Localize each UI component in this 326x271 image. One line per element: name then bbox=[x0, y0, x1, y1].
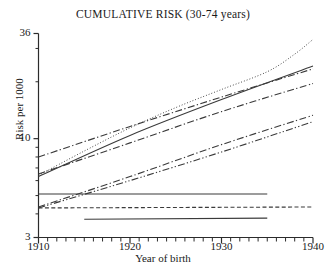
series-line-dashdot-lower bbox=[39, 115, 314, 207]
y-tick-label: 36 bbox=[5, 26, 31, 38]
x-tick-label: 1930 bbox=[202, 240, 242, 252]
x-tick-label: 1910 bbox=[19, 240, 59, 252]
plot-canvas bbox=[0, 0, 326, 271]
x-tick-label: 1920 bbox=[110, 240, 150, 252]
series-line-flat-dashed bbox=[39, 207, 314, 208]
series-line-dashdot-upper bbox=[39, 69, 314, 157]
series-line-flat-solid-lower bbox=[84, 218, 267, 219]
y-tick-label: 10 bbox=[5, 131, 31, 143]
series-line-dashdotdot-lowest bbox=[39, 122, 314, 208]
series-line-dotted-rising-curve bbox=[39, 39, 314, 175]
x-tick-label: 1940 bbox=[293, 240, 326, 252]
chart-figure: CUMULATIVE RISK (30-74 years) Risk per 1… bbox=[0, 0, 326, 271]
